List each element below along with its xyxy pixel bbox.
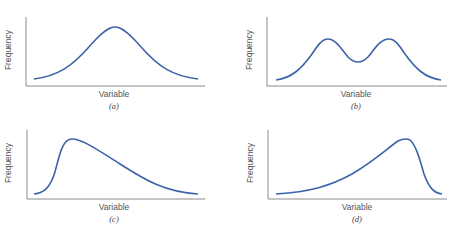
chart-panel-d: Frequency Variable (d) <box>0 0 457 230</box>
x-axis-label: Variable <box>317 202 397 212</box>
distribution-curve <box>276 139 442 194</box>
chart-d-plot <box>0 0 457 230</box>
panel-caption: (d) <box>337 214 377 224</box>
y-axis-label: Frequency <box>245 133 255 193</box>
